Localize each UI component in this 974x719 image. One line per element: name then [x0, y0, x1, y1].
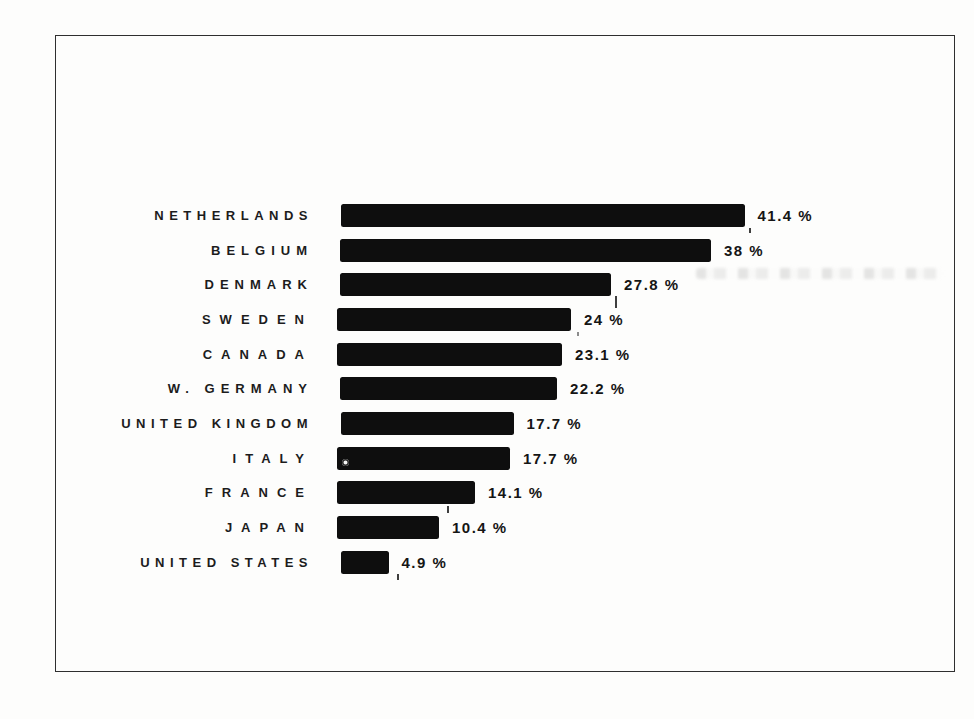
- scan-tick-artifact: [447, 506, 449, 513]
- scan-tick-artifact: [397, 574, 399, 580]
- bar: [337, 481, 475, 504]
- category-label: UNITED KINGDOM: [56, 416, 313, 431]
- value-label: 24 %: [584, 311, 624, 328]
- category-label: SWEDEN: [56, 312, 313, 327]
- bar: [337, 343, 562, 366]
- category-label: JAPAN: [56, 520, 313, 535]
- bar-row: W. GERMANY22.2 %: [56, 371, 954, 406]
- category-label: BELGIUM: [56, 243, 313, 258]
- bar-row: SWEDEN24 %: [56, 302, 954, 337]
- scan-smudge-artifact: [696, 268, 944, 279]
- value-label: 23.1 %: [575, 346, 631, 363]
- bar-row: NETHERLANDS41.4 %: [56, 198, 954, 233]
- value-label: 38 %: [724, 242, 764, 259]
- bar: [337, 516, 439, 539]
- scanned-page: NETHERLANDS41.4 %BELGIUM38 %DENMARK27.8 …: [0, 0, 974, 719]
- bar: [340, 273, 611, 296]
- bar: [340, 377, 557, 400]
- bar-row: ITALY17.7 %: [56, 441, 954, 476]
- scan-dot-artifact: [342, 459, 349, 466]
- category-label: NETHERLANDS: [56, 208, 313, 223]
- value-label: 17.7 %: [527, 415, 583, 432]
- category-label: W. GERMANY: [56, 381, 313, 396]
- category-label: UNITED STATES: [56, 555, 313, 570]
- bar: [341, 412, 514, 435]
- value-label: 27.8 %: [624, 276, 680, 293]
- value-label: 14.1 %: [488, 484, 544, 501]
- value-label: 10.4 %: [452, 519, 508, 536]
- category-label: DENMARK: [56, 277, 313, 292]
- category-label: CANADA: [56, 347, 313, 362]
- category-label: FRANCE: [56, 485, 313, 500]
- scan-tick-artifact: [615, 296, 617, 308]
- bar-row: FRANCE14.1 %: [56, 476, 954, 511]
- bar-row: BELGIUM38 %: [56, 233, 954, 268]
- bar: [337, 308, 571, 331]
- bar: [341, 204, 745, 227]
- bar-chart: NETHERLANDS41.4 %BELGIUM38 %DENMARK27.8 …: [56, 198, 954, 580]
- chart-frame: NETHERLANDS41.4 %BELGIUM38 %DENMARK27.8 …: [55, 35, 955, 672]
- scan-tick-artifact: [749, 228, 751, 233]
- bar-row: UNITED STATES4.9 %: [56, 545, 954, 580]
- bar-row: CANADA23.1 %: [56, 337, 954, 372]
- value-label: 4.9 %: [402, 554, 448, 571]
- value-label: 41.4 %: [758, 207, 814, 224]
- value-label: 22.2 %: [570, 380, 626, 397]
- bar-row: JAPAN10.4 %: [56, 510, 954, 545]
- bar: [340, 239, 711, 262]
- category-label: ITALY: [56, 451, 313, 466]
- bar: [341, 551, 389, 574]
- scan-tick-artifact: [577, 332, 579, 336]
- bar-row: UNITED KINGDOM17.7 %: [56, 406, 954, 441]
- value-label: 17.7 %: [523, 450, 579, 467]
- bar: [337, 447, 510, 470]
